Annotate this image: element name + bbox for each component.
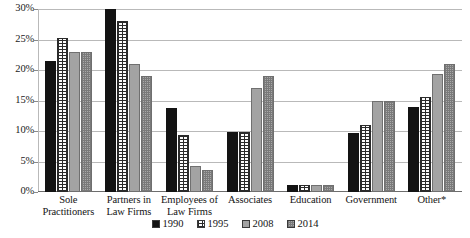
bar [227,132,238,192]
bar-group [99,9,160,192]
bar-group [159,9,220,192]
bar-group [280,9,341,192]
bar [408,107,419,192]
bar [81,52,92,192]
legend-swatch-icon [287,220,295,228]
y-axis-tick-label: 0% [0,186,34,196]
x-axis-category-label: Partners in Law Firms [99,194,160,217]
bar [190,166,201,192]
legend-item[interactable]: 2014 [287,219,319,229]
y-axis-tick-label: 30% [0,3,34,13]
y-axis-tick-label: 25% [0,34,34,44]
bar [299,185,310,192]
bar-group [401,9,462,192]
legend-label: 2014 [298,219,319,229]
bar [360,125,371,192]
bar-group [220,9,281,192]
y-axis-tick-label: 20% [0,64,34,74]
bar-group [341,9,402,192]
legend-item[interactable]: 1990 [152,219,184,229]
y-axis-tick-mark [33,192,38,193]
legend-swatch-icon [197,220,205,228]
bar [117,21,128,192]
y-axis-tick-label: 10% [0,125,34,135]
legend-item[interactable]: 2008 [242,219,274,229]
legend-label: 1995 [208,219,229,229]
bar [348,133,359,192]
bar [420,97,431,192]
x-axis-category-label: Government [341,194,402,217]
bar [69,52,80,192]
bar [444,64,455,192]
bar [263,76,274,192]
bar [251,88,262,192]
legend-label: 2008 [253,219,274,229]
plot-area [38,9,462,192]
chart-legend: 1990199520082014 [0,219,470,229]
bar [202,170,213,192]
y-axis-tick-label: 5% [0,156,34,166]
x-axis-category-label: Other* [401,194,462,217]
bar [239,132,250,192]
bar [323,185,334,192]
x-axis-category-label: Associates [220,194,281,217]
bar [311,185,322,192]
bar [372,101,383,193]
legend-item[interactable]: 1995 [197,219,229,229]
y-axis-tick-label: 15% [0,95,34,105]
bar [57,38,68,192]
bar-group [38,9,99,192]
bar [432,74,443,192]
bar [45,61,56,192]
bar [105,9,116,192]
x-axis-category-label: Employees of Law Firms [159,194,220,217]
legend-swatch-icon [242,220,250,228]
x-axis-labels: Sole PractitionersPartners in Law FirmsE… [38,194,462,217]
bar [287,185,298,192]
bar [166,108,177,192]
bar [178,135,189,192]
bar [384,101,395,193]
legend-swatch-icon [152,220,160,228]
bar [141,76,152,192]
bar-groups [38,9,462,192]
legend-label: 1990 [163,219,184,229]
bar-chart: 0%5%10%15%20%25%30% Sole PractitionersPa… [0,0,470,238]
x-axis-category-label: Sole Practitioners [38,194,99,217]
bar [129,64,140,192]
x-axis-category-label: Education [280,194,341,217]
